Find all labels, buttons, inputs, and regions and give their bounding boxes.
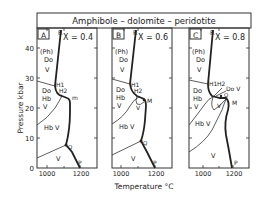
panel-b-label-r: R bbox=[133, 29, 138, 37]
panel-c-label-v-top: V bbox=[197, 66, 202, 74]
y-tick-30: 30 bbox=[25, 75, 34, 83]
panel-b-letter: B bbox=[116, 31, 121, 40]
panel-c-label-v-small: V bbox=[217, 102, 222, 109]
panel-b-label-h2: H2 bbox=[134, 87, 143, 94]
panel-b-label-ph: (Ph) bbox=[115, 48, 128, 56]
y-axis-label: Pressure kbar bbox=[16, 81, 25, 133]
panel-c-x-tick-1000: 1000 bbox=[195, 170, 212, 178]
panel-a-lower-boundary bbox=[37, 145, 66, 158]
panel-a-label-v-top: V bbox=[45, 66, 50, 74]
panel-c-letter: C bbox=[193, 31, 198, 40]
panel-b-lower-boundary bbox=[112, 141, 141, 155]
panel-c-label-q: Q bbox=[224, 92, 229, 98]
panel-a-label-q: Q bbox=[68, 144, 73, 150]
panel-b-label-v-top: V bbox=[120, 66, 125, 74]
panel-b: B X = 0.6 R (Ph) Do V H1 H2 M Do Hb V V … bbox=[112, 28, 172, 178]
panel-a-x-tick-1200: 1200 bbox=[73, 170, 90, 178]
panel-c-label-do-mid: Do bbox=[193, 87, 202, 95]
figure-title: Amphibole – dolomite – peridotite bbox=[72, 16, 215, 26]
panel-c-label-m: M bbox=[232, 99, 237, 106]
panel-a-label-v-mid: V bbox=[43, 103, 48, 111]
panel-c-solidus-curve bbox=[208, 30, 232, 168]
panel-c-label-do-v: Do V bbox=[226, 85, 241, 92]
panel-a: A X = 0.4 R (Ph) Do V H1 H2 m Do Hb V Hb… bbox=[37, 28, 97, 178]
panel-c-composition: X = 0.8 bbox=[215, 33, 245, 42]
y-tick-labels: 0 10 20 30 40 bbox=[25, 45, 34, 173]
panel-b-label-q: Q bbox=[143, 140, 148, 146]
panel-a-label-r: R bbox=[58, 29, 63, 37]
panel-b-label-do-mid: Do bbox=[116, 86, 125, 94]
panel-a-label-m: m bbox=[72, 94, 78, 101]
panel-a-label-do-top: Do bbox=[44, 56, 53, 64]
panel-c-label-v-mid: V bbox=[194, 103, 199, 111]
panel-a-label-p: P bbox=[78, 159, 82, 166]
y-tick-20: 20 bbox=[25, 105, 34, 113]
panel-c-label-ph: (Ph) bbox=[192, 48, 205, 56]
panel-b-label-do-top: Do bbox=[119, 56, 128, 64]
panel-b-label-m: M bbox=[147, 97, 152, 104]
panel-c: C X = 0.8 R (Ph) Do V H1 H2 Do V Q M Do … bbox=[189, 28, 249, 178]
panel-b-composition: X = 0.6 bbox=[138, 33, 168, 42]
panel-b-label-hbv: Hb V bbox=[119, 123, 135, 131]
y-tick-10: 10 bbox=[25, 135, 34, 143]
panel-b-point-m bbox=[143, 99, 146, 102]
panel-a-label-h2: H2 bbox=[59, 87, 68, 94]
panel-c-label-hb-mid: Hb bbox=[193, 95, 202, 103]
panel-a-do-boundary bbox=[37, 81, 55, 86]
panel-c-do-boundary bbox=[189, 80, 208, 84]
panel-c-label-p: P bbox=[234, 159, 238, 166]
y-tick-40: 40 bbox=[25, 45, 34, 53]
panel-a-label-hb-mid: Hb bbox=[42, 95, 51, 103]
panel-b-label-v-bot: V bbox=[131, 155, 136, 163]
y-tick-0: 0 bbox=[30, 165, 34, 173]
panel-c-point-q bbox=[220, 95, 222, 97]
panel-b-label-p: P bbox=[153, 159, 157, 166]
panel-c-label-v-bot: V bbox=[211, 152, 216, 160]
panel-a-label-hbv: Hb V bbox=[44, 124, 60, 132]
panel-b-label-v-mid: V bbox=[117, 102, 122, 110]
phase-diagram-figure: Amphibole – dolomite – peridotite Pressu… bbox=[0, 0, 264, 197]
panel-c-x-tick-1200: 1200 bbox=[226, 170, 243, 178]
panel-b-x-tick-1200: 1200 bbox=[148, 170, 165, 178]
x-axis-label: Temperature °C bbox=[114, 182, 174, 191]
panel-a-label-v-bot: V bbox=[56, 155, 61, 163]
panel-c-label-hbv: Hb V bbox=[195, 120, 211, 128]
panel-b-do-boundary bbox=[112, 79, 130, 84]
panel-a-composition: X = 0.4 bbox=[63, 33, 93, 42]
panel-a-x-tick-1000: 1000 bbox=[39, 170, 56, 178]
panel-a-letter: A bbox=[41, 31, 47, 40]
panel-a-label-ph: (Ph) bbox=[40, 48, 53, 56]
panel-c-label-do-top: Do bbox=[196, 56, 205, 64]
panel-c-label-h2: H2 bbox=[217, 80, 226, 87]
panel-c-label-r: R bbox=[210, 29, 215, 37]
panel-b-label-hb-mid: Hb bbox=[116, 94, 125, 102]
panel-b-x-tick-1000: 1000 bbox=[113, 170, 130, 178]
panel-b-label-v-small: V bbox=[136, 104, 141, 111]
panel-a-label-do-mid: Do bbox=[42, 87, 51, 95]
